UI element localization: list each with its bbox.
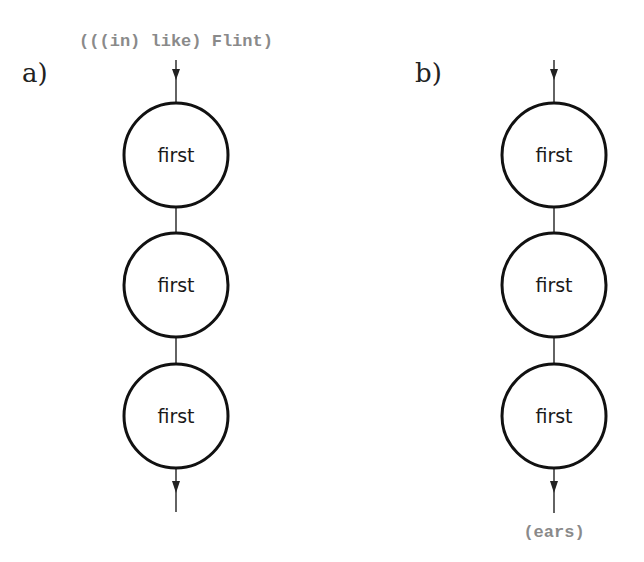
panel-b-label: b) xyxy=(415,58,442,88)
panel-a-label: a) xyxy=(22,58,48,88)
node-first: first xyxy=(124,103,228,207)
node-first: first xyxy=(502,103,606,207)
svg-text:first: first xyxy=(157,274,194,296)
arrow-down-icon xyxy=(550,481,558,493)
panel-b: b) (ears) first first first xyxy=(415,58,606,542)
svg-text:first: first xyxy=(157,144,194,166)
arrow-down-icon xyxy=(550,69,558,80)
node-first: first xyxy=(124,364,228,468)
panel-b-output-text: (ears) xyxy=(523,523,584,542)
node-first: first xyxy=(502,233,606,337)
arrow-down-icon xyxy=(172,481,180,493)
node-first: first xyxy=(502,364,606,468)
svg-text:first: first xyxy=(157,405,194,427)
svg-text:first: first xyxy=(535,274,572,296)
node-first: first xyxy=(124,233,228,337)
svg-text:first: first xyxy=(535,405,572,427)
panel-a-input-text: (((in) like) Flint) xyxy=(79,32,273,51)
svg-text:first: first xyxy=(535,144,572,166)
diagram-canvas: a) (((in) like) Flint) first first first… xyxy=(0,0,644,562)
panel-a: a) (((in) like) Flint) first first first xyxy=(22,32,273,512)
arrow-down-icon xyxy=(172,69,180,80)
